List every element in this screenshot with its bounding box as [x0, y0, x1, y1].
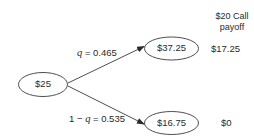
up-probability-label: q = 0.465 [77, 48, 117, 58]
up-node-label: $37.25 [144, 43, 199, 53]
root-node-label: $25 [18, 79, 68, 89]
payoff-header-line2: payoff [208, 22, 254, 33]
payoff-header: $20 Call payoff [208, 11, 254, 32]
down-probability-label: 1 − q = 0.535 [69, 114, 125, 124]
up-probability-value: = 0.465 [82, 47, 117, 58]
up-payoff: $17.25 [211, 44, 240, 54]
down-node-label: $16.75 [144, 118, 199, 128]
down-payoff: $0 [221, 118, 232, 128]
down-probability-prefix: 1 − [69, 113, 85, 124]
payoff-header-line1: $20 Call [208, 11, 254, 22]
down-probability-value: = 0.535 [90, 113, 125, 124]
